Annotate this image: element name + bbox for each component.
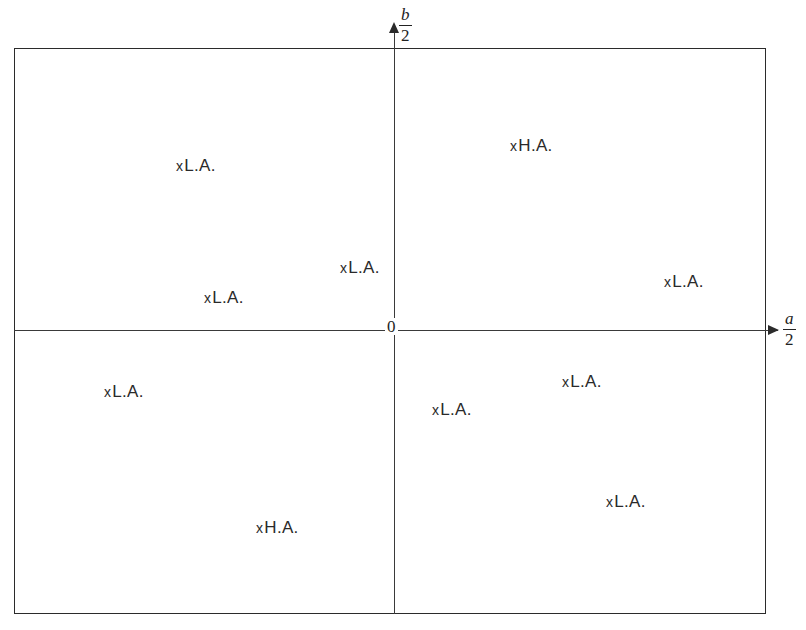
data-point-label: H.A. (264, 518, 298, 537)
data-point-label: L.A. (440, 400, 471, 419)
data-point: xL.A. (606, 492, 646, 512)
data-point-label: L.A. (614, 492, 645, 511)
data-point-label: L.A. (348, 258, 379, 277)
cross-marker-icon: x (664, 274, 671, 290)
data-point: xL.A. (432, 400, 472, 420)
cross-marker-icon: x (104, 384, 111, 400)
data-point: xL.A. (562, 372, 602, 392)
cross-marker-icon: x (256, 520, 263, 536)
vertical-axis-numerator: b (398, 6, 413, 25)
data-point: xL.A. (664, 272, 704, 292)
data-point-label: L.A. (212, 288, 243, 307)
horizontal-axis-label: a 2 (782, 310, 797, 349)
cross-marker-icon: x (606, 494, 613, 510)
cross-marker-icon: x (562, 374, 569, 390)
data-point: xL.A. (176, 156, 216, 176)
data-point-label: H.A. (518, 136, 552, 155)
data-point: xL.A. (340, 258, 380, 278)
data-point: xL.A. (204, 288, 244, 308)
horizontal-axis-denominator: 2 (782, 330, 797, 349)
data-point-label: L.A. (570, 372, 601, 391)
right-arrow-icon (768, 325, 779, 335)
data-point-label: L.A. (672, 272, 703, 291)
cross-marker-icon: x (340, 260, 347, 276)
data-point: xH.A. (510, 136, 553, 156)
data-point: xL.A. (104, 382, 144, 402)
horizontal-axis-numerator: a (782, 310, 797, 329)
vertical-axis-label: b 2 (398, 6, 413, 45)
cross-marker-icon: x (176, 158, 183, 174)
vertical-axis-denominator: 2 (398, 26, 413, 45)
data-point: xH.A. (256, 518, 299, 538)
data-point-label: L.A. (112, 382, 143, 401)
cross-marker-icon: x (432, 402, 439, 418)
origin-label: 0 (385, 318, 398, 335)
scatter-diagram-figure: b 2 a 2 0 xL.A.xH.A.xL.A.xL.A.xL.A.xL.A.… (0, 0, 806, 630)
data-point-label: L.A. (184, 156, 215, 175)
cross-marker-icon: x (204, 290, 211, 306)
cross-marker-icon: x (510, 138, 517, 154)
